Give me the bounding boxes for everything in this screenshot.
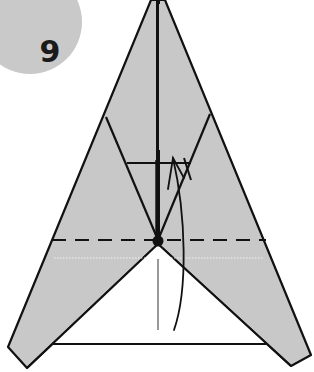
pivot-point-icon [153, 236, 164, 247]
center-spine [156, 0, 160, 240]
origami-diagram [0, 0, 314, 372]
